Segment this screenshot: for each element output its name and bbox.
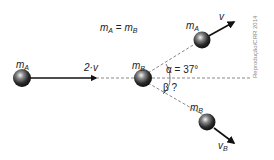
relation-right: m: [124, 22, 132, 33]
relation-right-sub: B: [133, 27, 138, 34]
incoming-velocity-label: 2·v: [84, 62, 98, 73]
collision-diagram: mA = mB mA 2·v mB mA v mB vB α = 37° β ?…: [0, 0, 274, 160]
ball-a-initial-label: mA: [16, 59, 29, 71]
ball-b-final: [199, 114, 216, 131]
label-sub: B: [140, 65, 145, 72]
ball-a-final-label: mA: [186, 20, 199, 32]
beta-text: β ?: [163, 82, 177, 93]
ball-a-final: [194, 32, 211, 49]
image-credit: Reprodução/CRR 2014: [252, 16, 258, 78]
label-sub: A: [194, 25, 199, 32]
incoming-velocity-text: 2·v: [84, 62, 98, 73]
velocity-a-arrow: [205, 22, 234, 38]
velocity-b-label: vB: [218, 140, 228, 152]
alpha-angle-label: α = 37°: [166, 64, 198, 75]
label-sub: A: [24, 64, 29, 71]
mass-relation: mA = mB: [100, 22, 137, 34]
velocity-a-label: v: [219, 11, 224, 22]
alpha-text: α = 37°: [166, 64, 198, 75]
velocity-b-sub: B: [223, 145, 228, 152]
beta-angle-label: β ?: [163, 82, 177, 93]
relation-eq: =: [113, 22, 124, 33]
ball-a-initial: [13, 69, 31, 87]
ball-b-initial-label: mB: [132, 60, 145, 72]
velocity-a-text: v: [219, 11, 224, 22]
label-sub: B: [198, 107, 203, 114]
ball-b-final-label: mB: [190, 102, 203, 114]
